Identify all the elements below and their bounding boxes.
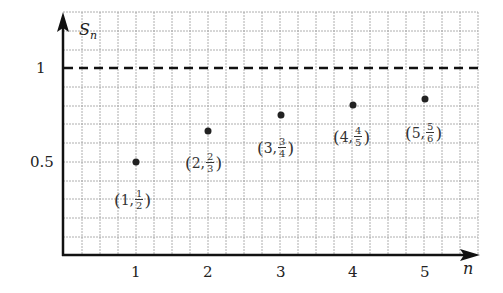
point-label-3: (3,34) [257, 136, 294, 159]
x-tick-3: 3 [276, 263, 286, 281]
x-tick-1: 1 [131, 263, 141, 281]
x-axis-label: n [463, 259, 473, 278]
point-label-5: (5,56) [405, 121, 442, 144]
point-label-1: (1,12) [114, 188, 151, 211]
x-tick-5: 5 [420, 263, 430, 281]
y-tick-0.5: 0.5 [30, 153, 54, 171]
y-axis-label: Sn [79, 20, 97, 42]
point-label-2: (2,23) [185, 151, 222, 174]
point-label-4: (4,45) [333, 125, 370, 148]
chart-canvas [0, 0, 503, 293]
y-tick-1: 1 [36, 59, 46, 77]
x-tick-2: 2 [203, 263, 213, 281]
x-tick-4: 4 [348, 263, 358, 281]
